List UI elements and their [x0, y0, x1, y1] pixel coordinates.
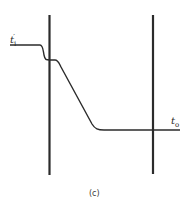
- figure-caption: (c): [89, 189, 100, 198]
- temperature-curve: [10, 45, 180, 130]
- output-temperature-label: to: [171, 115, 179, 129]
- input-temperature-label: ti′: [10, 33, 15, 48]
- temperature-profile-diagram: [0, 0, 191, 207]
